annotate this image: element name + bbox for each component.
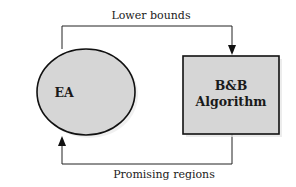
node-bb-algorithm: B&B Algorithm [183, 56, 282, 137]
edge-promising-regions: Promising regions [58, 134, 232, 181]
node-label-bb-line2: Algorithm [195, 94, 267, 109]
node-ea: EA [37, 49, 138, 138]
edge-lower-bounds: Lower bounds [62, 9, 236, 55]
edge-label-lower-bounds: Lower bounds [111, 9, 190, 22]
node-label-bb-line1: B&B [215, 78, 247, 93]
edge-label-promising-regions: Promising regions [113, 168, 215, 181]
diagram-canvas: Lower bounds Promising regions EA B&B Al… [0, 0, 296, 187]
arrowhead-down-icon [228, 45, 236, 55]
node-label-ea: EA [54, 85, 74, 100]
arrowhead-up-icon [58, 136, 66, 146]
